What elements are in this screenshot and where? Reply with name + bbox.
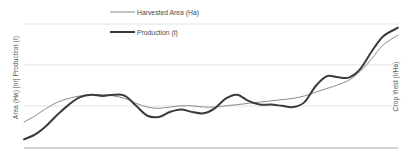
legend-label-production: Production (t) [137,29,178,36]
legend-marks [110,12,135,32]
y-axis-right-title: Crop Yield (t/Ha) [392,32,399,142]
gridlines [24,24,398,106]
legend-label-harvested-area: Harvested Area (Ha) [137,9,199,16]
chart-plot-svg [0,0,414,158]
y-axis-left-title: Area (Ha) [or] Production (t) [12,23,19,133]
data-series-group [24,28,398,140]
chart-container: Harvested Area (Ha) Production (t) Area … [0,0,414,158]
